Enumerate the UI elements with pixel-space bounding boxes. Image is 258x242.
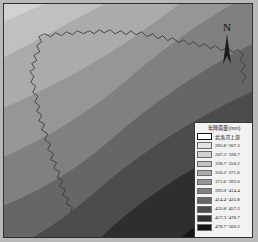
- legend-swatch-5: [197, 179, 212, 186]
- legend-swatch-2: [197, 151, 212, 158]
- legend-label-10: 478.7~500.2: [215, 224, 240, 230]
- legend-row-class-10: 478.7~500.2: [197, 223, 252, 232]
- map-frame: N 年降雨量(mm) 北洛河上游 285.8~307.3 307.3~328.7…: [3, 3, 253, 238]
- legend-swatch-3: [197, 161, 212, 168]
- rainfall-map-figure: N 年降雨量(mm) 北洛河上游 285.8~307.3 307.3~328.7…: [0, 0, 258, 242]
- legend-row-class-7: 414.4~435.8: [197, 196, 252, 205]
- legend-swatch-7: [197, 197, 212, 204]
- legend-row-class-1: 285.8~307.3: [197, 141, 252, 150]
- legend-row-class-4: 350.2~371.6: [197, 168, 252, 177]
- legend-label-4: 350.2~371.6: [215, 170, 240, 176]
- legend-label-3: 328.7~350.2: [215, 161, 240, 167]
- legend-swatch-8: [197, 206, 212, 213]
- legend-label-5: 371.6~393.0: [215, 179, 240, 185]
- north-arrow-needle: [223, 34, 231, 64]
- legend-label-boundary: 北洛河上游: [215, 134, 240, 140]
- legend-row-class-6: 393.0~414.4: [197, 187, 252, 196]
- legend-row-class-3: 328.7~350.2: [197, 159, 252, 168]
- legend-swatch-boundary: [197, 133, 212, 140]
- north-arrow-label: N: [223, 21, 231, 33]
- map-legend: 年降雨量(mm) 北洛河上游 285.8~307.3 307.3~328.7 3…: [194, 122, 253, 238]
- legend-swatch-1: [197, 142, 212, 149]
- legend-row-class-9: 457.3~478.7: [197, 214, 252, 223]
- legend-title: 年降雨量(mm): [197, 125, 252, 132]
- legend-label-8: 435.8~457.3: [215, 206, 240, 212]
- legend-swatch-4: [197, 170, 212, 177]
- north-arrow: N: [210, 18, 244, 70]
- legend-label-1: 285.8~307.3: [215, 143, 240, 149]
- legend-label-9: 457.3~478.7: [215, 215, 240, 221]
- legend-row-class-5: 371.6~393.0: [197, 177, 252, 186]
- legend-swatch-9: [197, 215, 212, 222]
- legend-row-class-2: 307.3~328.7: [197, 150, 252, 159]
- legend-label-6: 393.0~414.4: [215, 188, 240, 194]
- legend-row-class-8: 435.8~457.3: [197, 205, 252, 214]
- legend-swatch-10: [197, 224, 212, 231]
- legend-label-7: 414.4~435.8: [215, 197, 240, 203]
- legend-label-2: 307.3~328.7: [215, 152, 240, 158]
- legend-row-boundary: 北洛河上游: [197, 132, 252, 141]
- legend-swatch-6: [197, 188, 212, 195]
